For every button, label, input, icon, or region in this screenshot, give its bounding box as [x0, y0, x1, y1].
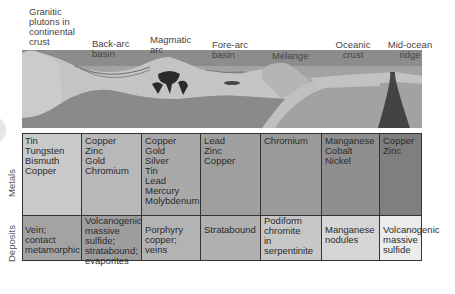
- table-frame: [22, 133, 422, 261]
- zone-label-forearc: Fore-arc basin: [212, 40, 248, 60]
- zone-label-magmatic: Magmatic arc: [150, 35, 191, 55]
- zone-label-oceanic: Oceanic crust: [330, 40, 376, 60]
- row-label-metals: Metals: [6, 169, 17, 197]
- zone-label-melange: Mélange: [272, 51, 308, 61]
- row-label-deposits: Deposits: [6, 225, 17, 262]
- margin-circle: [0, 116, 6, 144]
- forearc-deposit: [224, 81, 240, 85]
- zone-label-ridge: Mid-ocean ridge: [385, 40, 435, 60]
- zone-label-backarc: Back-arc basin: [92, 39, 129, 59]
- zone-label-granitic: Granitic plutons in continental crust: [29, 7, 75, 47]
